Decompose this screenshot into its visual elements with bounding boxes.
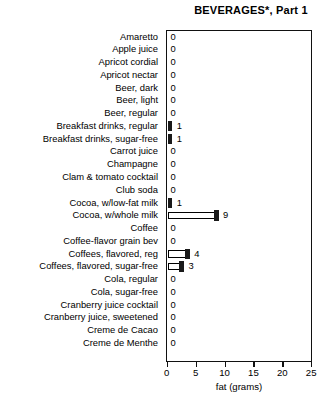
row-plot-cell: 0	[168, 107, 313, 120]
x-axis-tick-label: 0	[155, 367, 179, 378]
bar-end-cap	[179, 261, 184, 271]
chart-row: Coffees, flavored, sugar-free3	[0, 260, 329, 273]
row-plot-cell: 0	[168, 286, 313, 299]
chart-title: BEVERAGES*, Part 1	[176, 4, 326, 16]
row-plot-cell: 0	[168, 171, 313, 184]
chart-row: Coffees, flavored, reg4	[0, 248, 329, 261]
bar-end-cap	[185, 249, 190, 259]
category-label: Creme de Cacao	[87, 324, 158, 337]
category-label: Beer, dark	[115, 82, 158, 95]
category-label: Cocoa, w/low-fat milk	[69, 197, 158, 210]
chart-row: Creme de Menthe0	[0, 337, 329, 350]
chart-row: Cocoa, w/whole milk9	[0, 209, 329, 222]
x-axis-tick-label: 10	[213, 367, 237, 378]
chart-row: Apricot cordial0	[0, 56, 329, 69]
row-plot-cell: 1	[168, 133, 313, 146]
row-plot-cell: 0	[168, 56, 313, 69]
category-label: Cranberry juice, sweetened	[44, 311, 158, 324]
category-label: Cocoa, w/whole milk	[73, 209, 158, 222]
row-plot-cell: 0	[168, 158, 313, 171]
bar-end-cap	[168, 134, 173, 144]
chart-row: Cola, sugar-free0	[0, 286, 329, 299]
row-plot-cell: 0	[168, 43, 313, 56]
category-label: Cranberry juice cocktail	[61, 299, 158, 312]
bar-value-label: 4	[194, 248, 199, 261]
category-label: Amaretto	[120, 31, 158, 44]
row-plot-cell: 1	[168, 197, 313, 210]
bar-value-label: 0	[171, 107, 176, 120]
x-axis-tick-label: 20	[270, 367, 294, 378]
bar-end-cap	[168, 121, 173, 131]
bar-value-label: 0	[171, 299, 176, 312]
category-label: Coffee-flavor grain bev	[63, 235, 158, 248]
chart-row: Breakfast drinks, regular1	[0, 120, 329, 133]
bar-end-cap	[168, 198, 173, 208]
chart-row: Champagne0	[0, 158, 329, 171]
category-label: Carrot juice	[110, 145, 158, 158]
chart-row: Beer, regular0	[0, 107, 329, 120]
category-label: Coffees, flavored, reg	[69, 248, 158, 261]
category-label: Cola, sugar-free	[91, 286, 158, 299]
bar-value-label: 0	[171, 43, 176, 56]
row-plot-cell: 0	[168, 235, 313, 248]
chart-row: Cranberry juice, sweetened0	[0, 311, 329, 324]
bar-value-label: 0	[171, 145, 176, 158]
chart-row: Apple juice0	[0, 43, 329, 56]
row-plot-cell: 0	[168, 31, 313, 44]
bar-value-label: 1	[177, 197, 182, 210]
bar-value-label: 0	[171, 69, 176, 82]
bar-value-label: 0	[171, 235, 176, 248]
bar-value-label: 0	[171, 31, 176, 44]
bar-end-cap	[214, 210, 219, 220]
row-plot-cell: 9	[168, 209, 313, 222]
chart-row: Coffee0	[0, 222, 329, 235]
x-axis-title: fat (grams)	[166, 381, 312, 392]
x-axis-tick-label: 15	[241, 367, 265, 378]
category-label: Apricot nectar	[100, 69, 158, 82]
row-plot-cell: 0	[168, 222, 313, 235]
chart-row: Creme de Cacao0	[0, 324, 329, 337]
chart-row: Carrot juice0	[0, 145, 329, 158]
chart-row: Cola, regular0	[0, 273, 329, 286]
bar-value-label: 3	[188, 260, 193, 273]
bar-value-label: 0	[171, 324, 176, 337]
beverages-fat-chart: BEVERAGES*, Part 1 Amaretto0Apple juice0…	[0, 0, 329, 404]
row-plot-cell: 0	[168, 311, 313, 324]
chart-row: Beer, light0	[0, 94, 329, 107]
chart-row: Clam & tomato cocktail0	[0, 171, 329, 184]
row-plot-cell: 4	[168, 248, 313, 261]
row-plot-cell: 0	[168, 82, 313, 95]
chart-row: Coffee-flavor grain bev0	[0, 235, 329, 248]
chart-rows: Amaretto0Apple juice0Apricot cordial0Apr…	[0, 30, 329, 362]
category-label: Breakfast drinks, sugar-free	[43, 133, 158, 146]
category-label: Clam & tomato cocktail	[62, 171, 158, 184]
chart-row: Apricot nectar0	[0, 69, 329, 82]
chart-row: Beer, dark0	[0, 82, 329, 95]
bar-value-label: 1	[177, 133, 182, 146]
category-label: Champagne	[107, 158, 158, 171]
row-plot-cell: 0	[168, 299, 313, 312]
bar-value-label: 9	[223, 209, 228, 222]
row-plot-cell: 0	[168, 145, 313, 158]
chart-row: Amaretto0	[0, 31, 329, 44]
bar-value-label: 0	[171, 184, 176, 197]
category-label: Beer, regular	[104, 107, 158, 120]
category-label: Apple juice	[112, 43, 158, 56]
row-plot-cell: 1	[168, 120, 313, 133]
bar-value-label: 0	[171, 286, 176, 299]
bar-value-label: 1	[177, 120, 182, 133]
row-plot-cell: 0	[168, 324, 313, 337]
row-plot-cell: 3	[168, 260, 313, 273]
x-axis: fat (grams) 0510152025	[166, 362, 312, 402]
category-label: Club soda	[116, 184, 158, 197]
bar-value-label: 0	[171, 171, 176, 184]
x-axis-tick-label: 5	[184, 367, 208, 378]
row-plot-cell: 0	[168, 69, 313, 82]
bar	[168, 212, 217, 219]
row-plot-cell: 0	[168, 184, 313, 197]
row-plot-cell: 0	[168, 273, 313, 286]
bar-value-label: 0	[171, 311, 176, 324]
category-label: Coffee	[131, 222, 158, 235]
bar-value-label: 0	[171, 56, 176, 69]
bar-value-label: 0	[171, 222, 176, 235]
